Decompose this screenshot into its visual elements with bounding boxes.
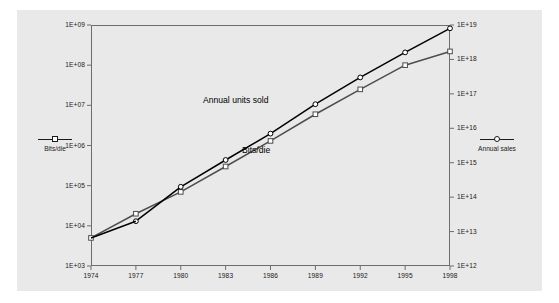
- x-tick-label: 1986: [255, 272, 287, 279]
- x-tick-label: 1989: [299, 272, 331, 279]
- x-tick-label: 1998: [434, 272, 466, 279]
- square-marker: [38, 135, 72, 144]
- x-tick-label: 1992: [344, 272, 376, 279]
- circle-marker: [480, 135, 514, 144]
- right-tick-label: 1E+16: [457, 124, 495, 131]
- left-tick-label: 1E+07: [47, 101, 85, 108]
- right-tick-label: 1E+12: [457, 262, 495, 269]
- right-tick-label: 1E+13: [457, 228, 495, 235]
- left-tick-label: 1E+09: [47, 21, 85, 28]
- series-annotation-annual-units-sold: Annual units sold: [203, 95, 268, 105]
- left-tick-label: 1E+04: [47, 222, 85, 229]
- x-tick-label: 1980: [165, 272, 197, 279]
- legend-annual-sales: Annual sales: [461, 135, 533, 152]
- x-tick-label: 1983: [210, 272, 242, 279]
- legend-square-glyph: [52, 136, 58, 142]
- right-tick-label: 1E+19: [457, 21, 495, 28]
- right-tick-label: 1E+14: [457, 193, 495, 200]
- series-annotation-bits-per-die: Bits/die: [242, 145, 270, 155]
- chart-figure: 1E+031E+041E+051E+061E+071E+081E+09 1E+1…: [17, 10, 542, 291]
- x-tick-label: 1974: [75, 272, 107, 279]
- legend-label-bits-per-die: Bits/die: [27, 145, 83, 152]
- legend-label-annual-sales: Annual sales: [461, 145, 533, 152]
- right-tick-label: 1E+18: [457, 55, 495, 62]
- right-tick-label: 1E+15: [457, 159, 495, 166]
- legend-bits-per-die: Bits/die: [27, 135, 83, 152]
- x-tick-label: 1995: [389, 272, 421, 279]
- legend-circle-glyph: [494, 136, 500, 142]
- x-tick-label: 1977: [120, 272, 152, 279]
- left-tick-label: 1E+03: [47, 262, 85, 269]
- right-tick-label: 1E+17: [457, 90, 495, 97]
- left-tick-label: 1E+05: [47, 182, 85, 189]
- plot-area: [91, 25, 450, 266]
- left-tick-label: 1E+08: [47, 61, 85, 68]
